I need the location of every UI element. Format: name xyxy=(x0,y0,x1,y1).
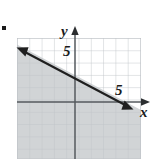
graph-figure: 5 5 y x xyxy=(0,0,154,159)
y-axis-label: y xyxy=(59,23,68,39)
grid-lines xyxy=(17,38,141,159)
x-axis-label: x xyxy=(139,104,148,120)
y-axis-tick-label: 5 xyxy=(63,43,71,59)
x-axis-tick-label: 5 xyxy=(115,82,123,98)
coordinate-plane-svg: 5 5 y x xyxy=(0,0,154,159)
bullet-marker xyxy=(2,26,6,30)
